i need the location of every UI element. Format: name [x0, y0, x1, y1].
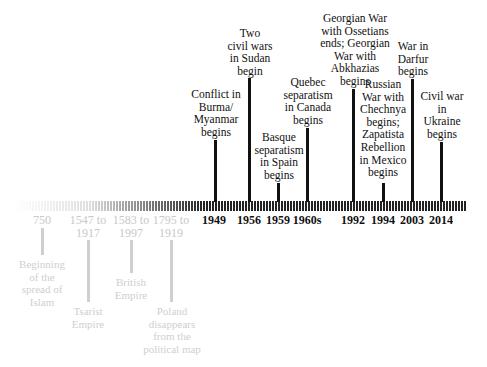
event-year-2003: 2003: [400, 214, 424, 227]
event-year-1992: 1992: [341, 214, 365, 227]
event-marker-1992: [352, 89, 355, 202]
event-label-2003: War in Darfur begins: [398, 40, 429, 78]
event-marker-1956: [248, 78, 251, 202]
timeline-diagram: 750 Beginning of the spread of Islam 154…: [0, 0, 487, 367]
event-year-1956: 1956: [237, 214, 261, 227]
historical-label-750: Beginning of the spread of Islam: [19, 258, 65, 308]
historical-marker-1547: [87, 240, 90, 302]
event-year-1994: 1994: [371, 214, 395, 227]
historical-year-750: 750: [33, 214, 51, 227]
event-year-1960s: 1960s: [293, 214, 322, 227]
event-marker-1959: [277, 183, 280, 202]
historical-marker-1795: [170, 240, 173, 302]
event-marker-2014: [440, 142, 443, 202]
historical-year-1795: 1795 to 1919: [153, 214, 189, 240]
event-marker-1994: [382, 183, 385, 202]
historical-label-1795: Poland disappears from the political map: [143, 305, 201, 355]
event-marker-1960s: [306, 128, 309, 202]
event-year-1949: 1949: [202, 214, 226, 227]
event-label-1994: Russian War with Chechnya begins; Zapati…: [360, 78, 407, 179]
historical-year-1583: 1583 to 1997: [113, 214, 149, 240]
event-marker-2003: [411, 79, 414, 202]
event-label-1949: Conflict in Burma/ Myanmar begins: [191, 88, 241, 138]
historical-label-1547: Tsarist Empire: [72, 305, 104, 330]
historical-label-1583: British Empire: [115, 276, 147, 301]
historical-year-1547: 1547 to 1917: [70, 214, 106, 240]
event-label-1959: Basque separatism in Spain begins: [254, 131, 303, 181]
event-year-1959: 1959: [266, 214, 290, 227]
historical-marker-1583: [130, 240, 133, 273]
event-label-2014: Civil war in Ukraine begins: [420, 90, 463, 140]
event-marker-1949: [214, 140, 217, 202]
timeline-axis-fade: [14, 201, 204, 211]
event-year-2014: 2014: [429, 214, 453, 227]
historical-marker-750: [41, 228, 44, 255]
event-label-1956: Two civil wars in Sudan begin: [227, 27, 272, 77]
event-label-1992: Georgian War with Ossetians ends; Georgi…: [320, 12, 390, 88]
